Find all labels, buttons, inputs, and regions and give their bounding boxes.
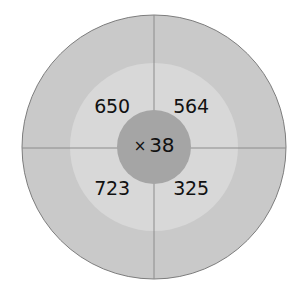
- multiplier-value: 38: [149, 133, 174, 157]
- multiply-icon: ×: [134, 137, 147, 155]
- multiplication-wheel: 650 564 723 325 ×38: [0, 0, 303, 294]
- quadrant-bottom-left-value: 723: [90, 179, 134, 198]
- center-multiplier: ×38: [117, 135, 191, 155]
- quadrant-top-right-value: 564: [169, 97, 213, 116]
- quadrant-bottom-right-value: 325: [169, 179, 213, 198]
- quadrant-top-left-value: 650: [90, 97, 134, 116]
